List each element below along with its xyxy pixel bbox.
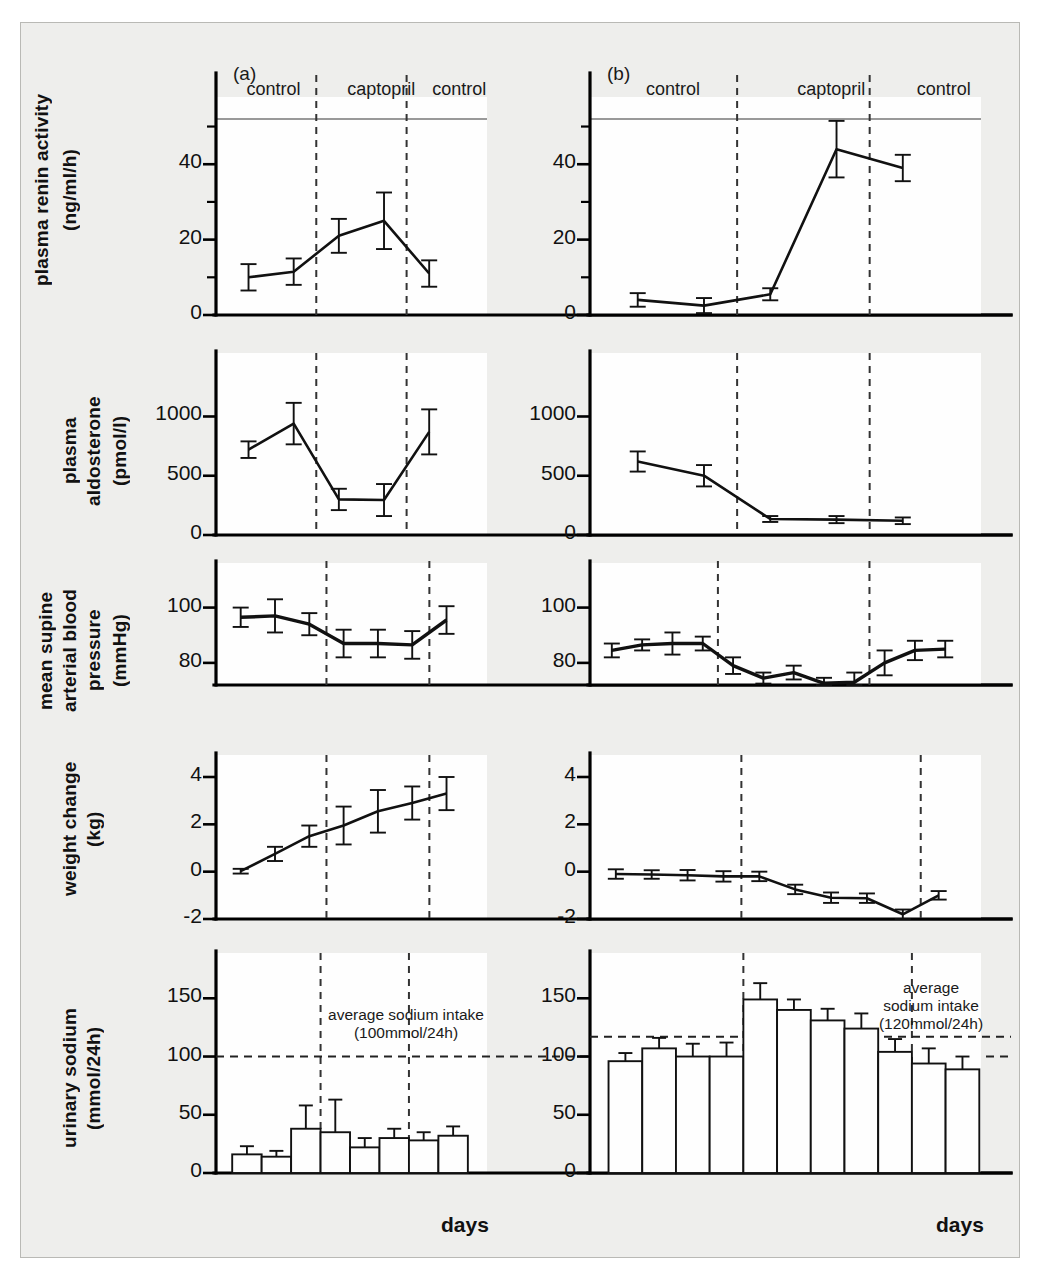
y-tick-label-b-4-0: 0	[560, 857, 577, 881]
y-tick-label-a-3-100: 100	[161, 593, 203, 617]
plot-background-b-1	[590, 97, 981, 315]
y-tick-label-b-1-20: 20	[547, 225, 576, 249]
y-tick-label-a-1-20: 20	[173, 225, 202, 249]
annotation-sodium-intake-b-line1: average	[861, 978, 1001, 997]
y-tick-label-b-4--2: -2	[547, 904, 576, 928]
plot-background-b-3	[590, 563, 981, 685]
annotation-sodium-intake-b-line2: sodium intake	[861, 996, 1001, 1015]
y-tick-label-b-2-1000: 1000	[522, 401, 576, 425]
y-tick-label-b-1-0: 0	[560, 300, 577, 324]
y-tick-label-b-4-4: 4	[560, 762, 577, 786]
y-tick-label-b-1-40: 40	[547, 149, 576, 173]
y-tick-label-a-4-2: 2	[186, 809, 203, 833]
bar-b-7	[844, 1029, 878, 1173]
y-tick-label-b-5-100: 100	[535, 1042, 577, 1066]
bar-b-1	[642, 1048, 676, 1173]
phase-label-b-0: control	[613, 79, 733, 100]
bar-a-1	[262, 1157, 291, 1173]
y-tick-label-b-3-100: 100	[535, 593, 577, 617]
phase-label-a-2: control	[399, 79, 519, 100]
bar-b-4	[743, 999, 777, 1173]
y-tick-label-b-5-150: 150	[535, 983, 577, 1007]
bar-a-0	[232, 1154, 261, 1173]
bar-a-7	[438, 1136, 467, 1173]
y-tick-label-a-4-0: 0	[186, 857, 203, 881]
bar-b-9	[912, 1064, 946, 1173]
bar-b-3	[710, 1057, 744, 1173]
y-tick-label-a-5-50: 50	[173, 1100, 202, 1124]
bar-a-3	[321, 1132, 350, 1173]
plot-background-a-1	[216, 97, 487, 315]
y-tick-label-b-5-50: 50	[547, 1100, 576, 1124]
plot-background-b-2	[590, 353, 981, 535]
phase-label-b-2: control	[884, 79, 1004, 100]
y-tick-label-a-4-4: 4	[186, 762, 203, 786]
plot-canvas	[21, 23, 1021, 1259]
y-tick-label-a-2-1000: 1000	[148, 401, 202, 425]
y-tick-label-a-1-0: 0	[186, 300, 203, 324]
figure-frame: (a) (b) plasma renin activity (ng/ml/h) …	[20, 22, 1020, 1258]
y-tick-label-b-2-500: 500	[535, 461, 577, 485]
bar-a-4	[350, 1147, 379, 1173]
y-tick-label-a-3-80: 80	[173, 648, 202, 672]
bar-b-8	[878, 1052, 912, 1173]
y-tick-label-a-1-40: 40	[173, 149, 202, 173]
bar-a-6	[409, 1140, 438, 1173]
bar-a-2	[291, 1129, 320, 1173]
annotation-sodium-intake-b-line3: (120mmol/24h)	[861, 1014, 1001, 1033]
phase-label-b-1: captopril	[771, 79, 891, 100]
y-tick-label-a-2-500: 500	[161, 461, 203, 485]
phase-label-a-0: control	[213, 79, 333, 100]
y-tick-label-a-5-150: 150	[161, 983, 203, 1007]
bar-b-5	[777, 1010, 811, 1173]
y-tick-label-a-5-0: 0	[186, 1158, 203, 1182]
y-tick-label-b-4-2: 2	[560, 809, 577, 833]
bar-b-2	[676, 1057, 710, 1173]
y-tick-label-a-5-100: 100	[161, 1042, 203, 1066]
annotation-sodium-intake-a-line1: average sodium intake	[296, 1005, 516, 1024]
y-tick-label-b-2-0: 0	[560, 520, 577, 544]
y-tick-label-a-2-0: 0	[186, 520, 203, 544]
bar-b-6	[811, 1020, 845, 1173]
y-tick-label-b-5-0: 0	[560, 1158, 577, 1182]
bar-b-0	[609, 1061, 643, 1173]
bar-a-5	[379, 1138, 408, 1173]
annotation-sodium-intake-a-line2: (100mmol/24h)	[296, 1023, 516, 1042]
y-tick-label-a-4--2: -2	[173, 904, 202, 928]
plot-background-b-4	[590, 755, 981, 919]
bar-b-10	[946, 1069, 980, 1173]
y-tick-label-b-3-80: 80	[547, 648, 576, 672]
